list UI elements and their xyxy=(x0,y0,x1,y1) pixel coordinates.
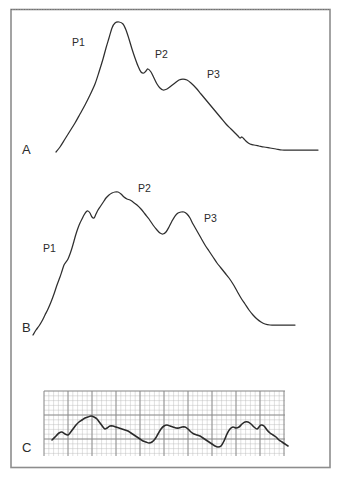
peak-label-a-p3: P3 xyxy=(207,68,220,80)
figure-container: A B C P1 P2 P3 P1 P2 P3 xyxy=(0,0,343,480)
ecg-grid xyxy=(44,391,285,456)
figure-frame xyxy=(11,10,330,468)
panel-label-b: B xyxy=(22,320,31,335)
peak-label-b-p3: P3 xyxy=(204,212,217,224)
panel-label-a: A xyxy=(22,142,31,157)
waveform-trace-a xyxy=(56,22,318,152)
peak-label-b-p1: P1 xyxy=(43,242,56,254)
peak-label-a-p1: P1 xyxy=(72,36,85,48)
peak-label-b-p2: P2 xyxy=(138,182,151,194)
waveform-figure: A B C P1 P2 P3 P1 P2 P3 xyxy=(0,0,343,480)
peak-label-a-p2: P2 xyxy=(155,48,168,60)
waveform-trace-b xyxy=(33,192,295,335)
panel-label-c: C xyxy=(22,440,31,455)
